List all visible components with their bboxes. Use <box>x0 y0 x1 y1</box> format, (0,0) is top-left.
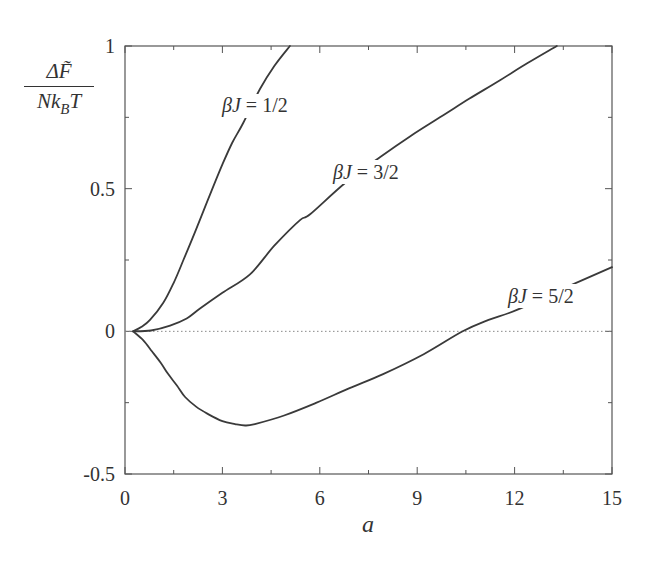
y-tick-label: 0.5 <box>90 178 115 200</box>
x-tick-label: 15 <box>602 487 622 509</box>
axis-ticks <box>125 46 612 474</box>
x-tick-label: 9 <box>412 487 422 509</box>
y-axis-label-denominator: NkBT <box>24 89 94 121</box>
line-chart: 03691215-0.500.51 βJ = 1/2 βJ = 3/2 βJ =… <box>0 0 648 562</box>
x-tick-label: 6 <box>315 487 325 509</box>
plot-frame <box>125 46 612 474</box>
x-tick-label: 0 <box>120 487 130 509</box>
x-tick-label: 3 <box>217 487 227 509</box>
curve-series-1 <box>133 46 290 331</box>
curve-label-beta-j-three-halves: βJ = 3/2 <box>332 161 399 184</box>
y-axis-label-den-main: Nk <box>37 89 60 113</box>
y-axis-label-fraction-bar <box>24 86 94 87</box>
plot-border <box>125 46 612 474</box>
y-axis-label-den-tail: T <box>69 89 81 113</box>
curve-series-2 <box>133 46 557 331</box>
x-tick-label: 12 <box>505 487 525 509</box>
y-axis-label-numerator: ΔF̃ <box>24 58 94 84</box>
y-tick-label: 0 <box>105 320 115 342</box>
x-axis-label: a <box>362 511 374 537</box>
axis-tick-labels: 03691215-0.500.51 <box>83 35 622 509</box>
curves <box>133 46 612 426</box>
curve-label-beta-j-five-halves: βJ = 5/2 <box>507 285 574 308</box>
y-tick-label: 1 <box>105 35 115 57</box>
y-axis-label: ΔF̃ NkBT <box>24 58 94 121</box>
y-tick-label: -0.5 <box>83 463 115 485</box>
curve-label-beta-j-half: βJ = 1/2 <box>221 94 288 117</box>
